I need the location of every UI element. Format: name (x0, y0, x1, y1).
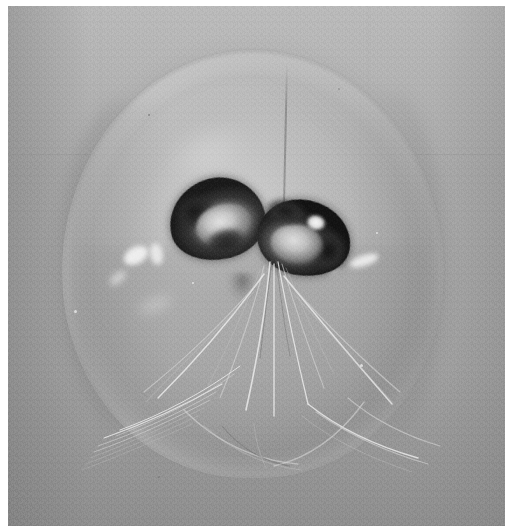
photo-subject: transparent jellyfish-like bell specimen (0, 0, 1, 1)
film-grain-layer-2 (8, 6, 505, 526)
photo-print-area (8, 6, 505, 526)
photo-title: Gelatinous marine organism photographed … (0, 0, 1, 1)
photograph-canvas: Gelatinous marine organism photographed … (0, 0, 519, 526)
